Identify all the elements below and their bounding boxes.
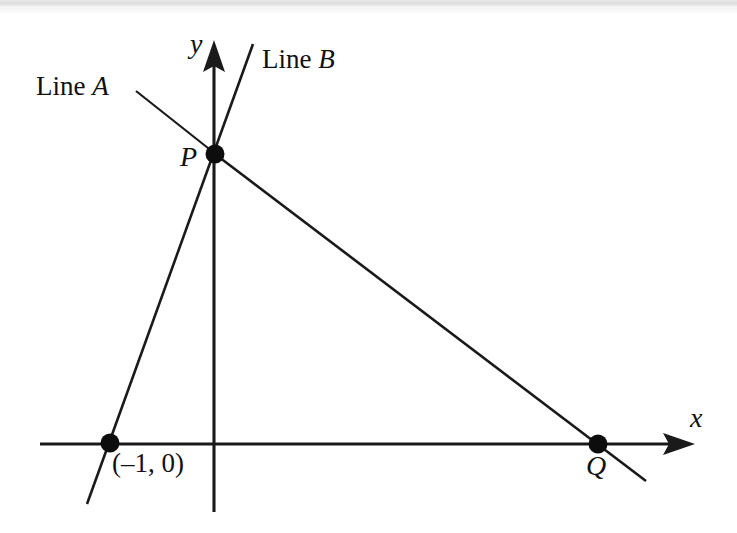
line-b-label-prefix: Line [262, 44, 318, 74]
x-axis-label: x [690, 404, 702, 432]
line-b-label: Line B [262, 46, 335, 73]
y-axis-label: y [190, 30, 202, 58]
line-a-label-letter: A [92, 71, 109, 101]
geometry-diagram-svg [0, 0, 737, 533]
line-a-stroke [215, 154, 646, 481]
line-b-label-letter: B [318, 44, 335, 74]
y-axis [203, 40, 225, 512]
point-p-dot [206, 145, 225, 164]
figure-canvas: Line A Line B y x P Q (–1, 0) [0, 0, 737, 533]
line-a-label: Line A [36, 73, 109, 100]
line-a-leader [136, 91, 213, 152]
line-a-label-prefix: Line [36, 71, 92, 101]
point-q-label: Q [586, 452, 606, 480]
coordinate-label-neg-one: (–1, 0) [112, 450, 184, 477]
point-p-label: P [180, 143, 197, 171]
